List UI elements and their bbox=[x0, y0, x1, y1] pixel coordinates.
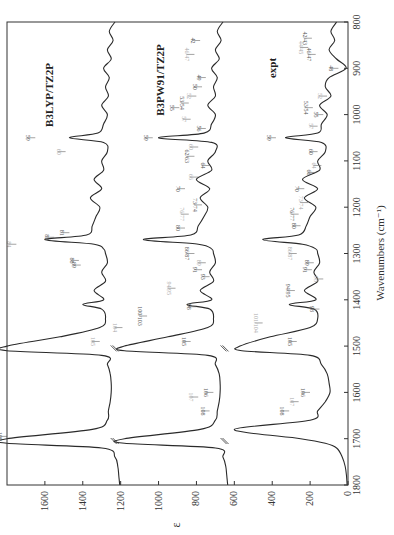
b3pw91-peak-label: 89 bbox=[196, 260, 202, 266]
expt-peak-label: 105 bbox=[287, 337, 293, 346]
b3pw91-peak-label: 73/74 bbox=[192, 198, 198, 212]
panel-label-b3lyp: B3LYP/TZ2P bbox=[43, 63, 55, 127]
wavenumber-tick-label: 1500 bbox=[351, 336, 362, 356]
b3pw91-peak-label: 100/103 bbox=[137, 306, 143, 326]
wavenumber-axis: 8009001000110012001300140015001600170018… bbox=[344, 15, 362, 496]
b3lyp-peak-label: 109 bbox=[0, 432, 3, 441]
b3pw91-peak-label: 66 bbox=[188, 174, 194, 180]
expt-peak-label: 64 bbox=[311, 163, 317, 169]
b3pw91-peak-label: 57 bbox=[181, 116, 187, 122]
b3pw91-peak-label: 55 bbox=[169, 105, 175, 111]
expt-peak-label: 60 bbox=[308, 149, 314, 155]
epsilon-tick-label: 1600 bbox=[39, 491, 50, 511]
expt-peak-label: 53/54 bbox=[303, 101, 309, 115]
wavenumber-tick-label: 800 bbox=[351, 15, 362, 30]
wavenumber-tick-label: 1100 bbox=[351, 151, 362, 171]
b3pw91-peak-label: 104 bbox=[112, 323, 118, 332]
b3pw91-peak-label: 108 bbox=[200, 406, 206, 415]
expt-peak-label: 52 bbox=[317, 93, 323, 99]
plot-frame bbox=[7, 22, 348, 485]
expt-peak-label: 94/95 bbox=[285, 284, 291, 298]
expt-peak-label: 89 bbox=[304, 260, 310, 266]
expt-peak-label: 107 bbox=[289, 397, 295, 406]
epsilon-tick-label: 1400 bbox=[77, 491, 88, 511]
b3pw91-peak-label: 80 bbox=[175, 225, 181, 231]
expt-peak-label: 76/77 bbox=[289, 207, 295, 221]
epsilon-tick-label: 600 bbox=[228, 491, 239, 506]
b3pw91-peak-label: 62/63 bbox=[184, 149, 190, 163]
expt-peak-label: 86/87 bbox=[287, 247, 293, 261]
b3pw91-peak-label: 53/54 bbox=[179, 96, 185, 110]
b3lyp-peak-label: 59 bbox=[25, 135, 31, 141]
expt-peak-label: 91 bbox=[302, 267, 308, 273]
expt-peak-label: 46/47 bbox=[306, 48, 312, 62]
wavenumber-tick-label: 1400 bbox=[351, 290, 362, 310]
expt-peak-label: 57 bbox=[308, 123, 314, 129]
expt-peak-label: 44/45 bbox=[298, 41, 304, 55]
b3pw91-peak-label: 105 bbox=[181, 337, 187, 346]
expt-peak-label: 80 bbox=[291, 223, 297, 229]
epsilon-tick-label: 400 bbox=[266, 491, 277, 506]
epsilon-tick-label: 800 bbox=[190, 491, 201, 506]
wavenumber-tick-label: 1200 bbox=[351, 197, 362, 217]
epsilon-axis-label: ε bbox=[169, 522, 183, 527]
b3pw91-peak-label: 46/47 bbox=[184, 48, 190, 62]
expt-peak-label: 101/104 bbox=[253, 313, 259, 333]
panel-label-expt: expt bbox=[266, 58, 278, 79]
b3lyp-peak-label: 81 bbox=[59, 230, 65, 236]
b3pw91-peak-label: 59 bbox=[143, 135, 149, 141]
b3lyp-peak-label: 60 bbox=[56, 149, 62, 155]
spectrum-b3lyp bbox=[0, 22, 120, 485]
expt-peak-label: 108 bbox=[279, 406, 285, 415]
expt-peak-label: 55 bbox=[313, 112, 319, 118]
b3pw91-peak-label: 106 bbox=[203, 388, 209, 397]
b3pw91-peak-label: 70 bbox=[175, 186, 181, 192]
b3lyp-peak-label: 89 bbox=[71, 262, 77, 268]
expt-peak-label: 106 bbox=[300, 388, 306, 397]
b3pw91-peak-label: 64 bbox=[200, 163, 206, 169]
b3pw91-peak-label: 52 bbox=[186, 93, 192, 99]
wavenumber-axis-label: Wavenumbers (cm⁻¹) bbox=[374, 205, 387, 301]
epsilon-tick-label: 1200 bbox=[115, 491, 126, 511]
b3pw91-peak-label: 91 bbox=[192, 267, 198, 273]
b3pw91-peak-label: 42 bbox=[190, 38, 196, 44]
wavenumber-tick-label: 1000 bbox=[351, 105, 362, 125]
wavenumber-tick-label: 1300 bbox=[351, 244, 362, 264]
b3pw91-peak-label: 98 bbox=[186, 304, 192, 310]
epsilon-tick-label: 1000 bbox=[153, 491, 164, 511]
b3pw91-peak-label: 50 bbox=[192, 84, 198, 90]
expt-peak-label: 93 bbox=[313, 276, 319, 282]
b3lyp-peak-label: 82 bbox=[44, 234, 50, 240]
panel-label-b3pw91: B3PW91/TZ2P bbox=[154, 44, 166, 116]
b3pw91-peak-label: 56 bbox=[196, 125, 202, 131]
b3pw91-peak-label: 93 bbox=[200, 274, 206, 280]
spectrum-b3pw91 bbox=[114, 22, 228, 485]
b3pw91-peak-label: 107 bbox=[188, 393, 194, 402]
expt-peak-label: 70 bbox=[294, 186, 300, 192]
expt-peak-label: 98 bbox=[309, 306, 315, 312]
b3pw91-peak-label: 49 bbox=[196, 75, 202, 81]
b3pw91-peak-label: 76/77 bbox=[179, 207, 185, 221]
ir-spectrum-chart: 42/4344/4546/47485253/545557596064667073… bbox=[0, 0, 394, 535]
wavenumber-tick-label: 1700 bbox=[351, 429, 362, 449]
expt-peak-label: 59 bbox=[266, 135, 272, 141]
b3pw91-peak-label: 86/87 bbox=[184, 247, 190, 261]
b3lyp-peak-label: 105 bbox=[90, 337, 96, 346]
expt-peak-label: 66 bbox=[306, 169, 312, 175]
wavenumber-tick-label: 1600 bbox=[351, 382, 362, 402]
expt-peak-label: 73/74 bbox=[298, 196, 304, 210]
expt-peak-label: 48 bbox=[328, 65, 334, 71]
wavenumber-tick-label: 900 bbox=[351, 61, 362, 76]
b3pw91-peak-label: 94/95 bbox=[166, 281, 172, 295]
epsilon-tick-label: 0 bbox=[342, 491, 353, 496]
epsilon-tick-label: 200 bbox=[304, 491, 315, 506]
